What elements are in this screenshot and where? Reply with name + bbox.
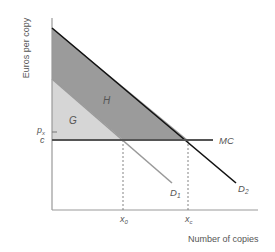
px-label: px <box>36 125 46 136</box>
y-axis-label: Euros per copy <box>21 17 31 78</box>
c-label: c <box>40 135 45 145</box>
d1-label: D1 <box>170 187 181 199</box>
chart: Euros per copy Number of copies H G MC D… <box>0 0 275 252</box>
mc-label: MC <box>219 135 234 146</box>
x0-label: x0 <box>119 214 129 225</box>
xc-label: xc <box>184 214 193 225</box>
d2-label: D2 <box>238 183 249 195</box>
area-g-label: G <box>69 115 77 126</box>
x-axis-label: Number of copies <box>188 234 259 244</box>
area-h-label: H <box>103 95 111 106</box>
